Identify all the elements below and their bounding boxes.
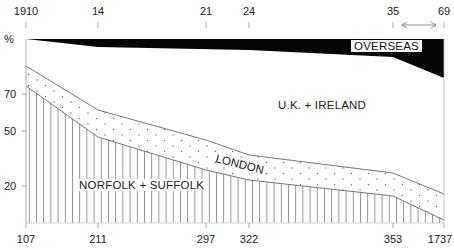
top-tick-label: 24 [243,5,255,17]
top-tick-label: 14 [92,5,104,17]
y-tick-label: 20 [4,180,16,192]
bottom-tick-label: 322 [240,233,258,245]
top-ticks [26,22,444,28]
stacked-area-chart: LONDON [0,0,454,250]
bottom-tick-label: 353 [384,233,402,245]
top-tick-label: 35 [387,5,399,17]
bottom-tick-label: 211 [89,233,107,245]
y-tick-label: 70 [4,88,16,100]
double-arrow-icon [402,22,436,28]
top-tick-label: 69 [438,5,450,17]
top-tick-label: 21 [200,5,212,17]
y-tick-label: 50 [4,125,16,137]
norfolk-suffolk-label: NORFOLK + SUFFOLK [77,179,206,191]
bottom-tick-label: 1737 [428,233,452,245]
uk-ireland-label: U.K. + IRELAND [276,99,368,111]
y-unit-label: % [4,33,14,45]
top-tick-label: 1910 [14,5,38,17]
bottom-tick-label: 297 [197,233,215,245]
bottom-ticks [26,223,444,228]
overseas-label: OVERSEAS [351,40,422,52]
bottom-tick-label: 107 [17,233,35,245]
